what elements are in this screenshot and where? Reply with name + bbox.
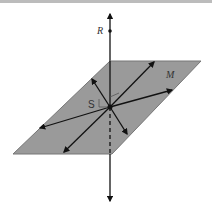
point-s	[108, 105, 113, 110]
perpendicular-line-plane-diagram: R M S	[0, 0, 212, 214]
diagram-canvas: R M S	[0, 0, 212, 214]
point-r	[108, 29, 112, 33]
label-m: M	[165, 69, 175, 80]
label-r: R	[96, 25, 103, 36]
label-s: S	[88, 99, 95, 110]
